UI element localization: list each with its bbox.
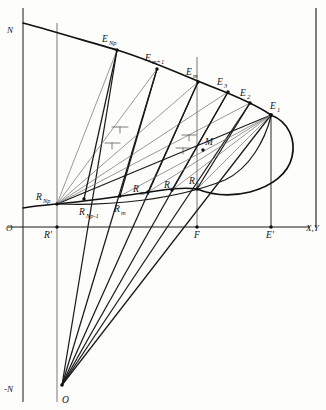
node-dot-M xyxy=(201,148,204,151)
connector-R2-E3 xyxy=(172,92,228,190)
label-N-top: N xyxy=(6,25,14,35)
label-E3-base: E xyxy=(216,77,223,87)
parabola-nose xyxy=(197,115,293,195)
node-dot-Rprime xyxy=(55,225,58,228)
label-E2-base: E xyxy=(239,88,246,98)
ray-Q-to-E2 xyxy=(62,103,250,385)
label-RNp1-sub: Np-1 xyxy=(85,212,99,219)
label-E3-sub: 3 xyxy=(223,82,227,89)
label-RNp-sub: Np xyxy=(42,197,50,204)
label-axis-XY: X,Y xyxy=(305,223,320,233)
node-dot-E3 xyxy=(226,90,229,93)
node-dot-E1 xyxy=(269,113,273,117)
label-Rprime: R' xyxy=(43,230,53,240)
label-Rm: R m xyxy=(113,204,126,216)
label-E1-base: E xyxy=(269,101,276,111)
label-Em-sub: m xyxy=(193,72,198,79)
light-ray-RNp-Em xyxy=(57,82,198,204)
dimension-tick-group xyxy=(105,127,196,154)
label-R1-sub: 1 xyxy=(196,181,199,188)
label-RNp1: R Np-1 xyxy=(78,207,99,219)
label-F: F xyxy=(193,230,200,240)
label-M: M xyxy=(204,137,214,147)
label-R1: R 1 xyxy=(188,176,199,188)
node-dot-Q xyxy=(60,383,64,387)
label-N-bottom: -N xyxy=(4,384,14,394)
label-Em-base: E xyxy=(185,67,192,77)
node-dot-Em1 xyxy=(155,67,158,70)
label-ENp-sub: Np xyxy=(108,39,116,46)
label-Em1-sub: m+1 xyxy=(152,58,164,65)
label-R2-base: R xyxy=(163,180,170,190)
technical-diagram-figure: N -N O X,Y E Np E m+1 E m E 3 E 2 E 1 xyxy=(0,0,326,410)
label-E3: E 3 xyxy=(216,77,227,89)
label-E1-sub: 1 xyxy=(277,106,280,113)
label-Rm1-base: R xyxy=(132,184,139,194)
node-dot-Eprime xyxy=(269,225,272,228)
node-dot-Rm xyxy=(118,194,121,197)
label-E2-sub: 2 xyxy=(247,93,251,100)
node-dot-RNp xyxy=(55,202,58,205)
label-ENp-base: E xyxy=(101,34,108,44)
label-origin-O: O xyxy=(6,223,13,233)
light-ray-RNp-E3 xyxy=(57,92,228,204)
label-ENp: E Np xyxy=(101,34,116,46)
node-dot-ENp xyxy=(115,48,118,51)
light-ray-RNp-ENp xyxy=(57,50,117,204)
dimension-tick-2 xyxy=(105,143,120,149)
label-Rm1-sub: m-1 xyxy=(140,189,150,196)
dimension-tick-1 xyxy=(112,127,128,133)
diagram-svg: N -N O X,Y E Np E m+1 E m E 3 E 2 E 1 xyxy=(0,0,326,410)
node-dot-Em xyxy=(196,80,199,83)
connector-Rm-Em1 xyxy=(120,69,157,196)
label-E1: E 1 xyxy=(269,101,280,113)
label-R1-base: R xyxy=(188,176,195,186)
node-dot-RNp1 xyxy=(82,197,85,200)
label-Em1-base: E xyxy=(144,53,151,63)
label-Q-vertex: O xyxy=(62,395,69,405)
label-Rm-base: R xyxy=(113,204,120,214)
label-Rm-sub: m xyxy=(121,209,126,216)
node-dot-E2 xyxy=(248,101,251,104)
label-Em1: E m+1 xyxy=(144,53,164,65)
label-RNp-base: R xyxy=(35,192,42,202)
label-Eprime: E' xyxy=(265,230,275,240)
chord-RNp-to-E1 xyxy=(57,115,271,204)
label-RNp1-base: R xyxy=(78,207,85,217)
connector-RNp1-ENp xyxy=(84,50,117,199)
label-RNp: R Np xyxy=(35,192,50,204)
dimension-tick-3 xyxy=(182,135,196,141)
node-dot-F xyxy=(195,225,198,228)
